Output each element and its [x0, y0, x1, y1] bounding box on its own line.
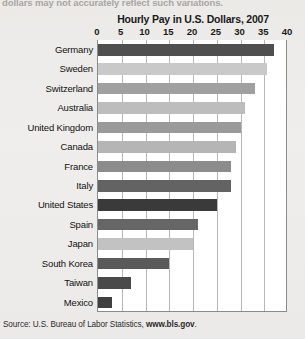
bar-series: [98, 40, 286, 311]
bar-united-states: [98, 199, 217, 211]
x-tick-20: 20: [187, 26, 198, 37]
bar-switzerland: [98, 83, 255, 95]
bar-united-kingdom: [98, 122, 241, 134]
bar-canada: [98, 141, 236, 153]
plot-area: [97, 40, 287, 312]
category-label-france: France: [0, 157, 93, 176]
bar-row: [98, 157, 286, 176]
x-tick-35: 35: [258, 26, 269, 37]
bar-mexico: [98, 297, 112, 309]
x-axis-tick-labels: 0510152025303540: [97, 26, 287, 39]
bar-row: [98, 195, 286, 214]
bar-row: [98, 293, 286, 312]
category-label-south-korea: South Korea: [0, 254, 93, 273]
bar-row: [98, 273, 286, 292]
category-label-germany: Germany: [0, 40, 93, 59]
category-label-united-states: United States: [0, 195, 93, 214]
bar-row: [98, 59, 286, 78]
bar-row: [98, 215, 286, 234]
category-label-canada: Canada: [0, 137, 93, 156]
bar-row: [98, 254, 286, 273]
source-suffix: .: [195, 320, 197, 329]
category-label-spain: Spain: [0, 215, 93, 234]
bar-row: [98, 40, 286, 59]
category-label-australia: Australia: [0, 98, 93, 117]
x-tick-40: 40: [282, 26, 293, 37]
bar-france: [98, 161, 231, 173]
x-tick-30: 30: [234, 26, 245, 37]
category-label-taiwan: Taiwan: [0, 273, 93, 292]
x-tick-0: 0: [94, 26, 99, 37]
category-label-italy: Italy: [0, 176, 93, 195]
bar-italy: [98, 180, 231, 192]
source-link: www.bls.gov: [146, 320, 195, 329]
bar-spain: [98, 219, 198, 231]
bar-taiwan: [98, 277, 131, 289]
category-label-switzerland: Switzerland: [0, 79, 93, 98]
x-tick-5: 5: [118, 26, 123, 37]
x-tick-15: 15: [163, 26, 174, 37]
bar-row: [98, 79, 286, 98]
bar-row: [98, 234, 286, 253]
category-label-sweden: Sweden: [0, 59, 93, 78]
bar-row: [98, 98, 286, 117]
category-axis-labels: GermanySwedenSwitzerlandAustraliaUnited …: [0, 40, 93, 312]
x-tick-10: 10: [139, 26, 150, 37]
bar-japan: [98, 238, 193, 250]
source-note: Source: U.S. Bureau of Labor Statistics,…: [3, 320, 197, 329]
bar-south-korea: [98, 258, 169, 270]
bar-row: [98, 176, 286, 195]
x-tick-25: 25: [210, 26, 221, 37]
source-prefix: Source: U.S. Bureau of Labor Statistics,: [3, 320, 146, 329]
bar-sweden: [98, 63, 267, 75]
category-label-mexico: Mexico: [0, 293, 93, 312]
bar-row: [98, 118, 286, 137]
bar-row: [98, 137, 286, 156]
bar-australia: [98, 102, 245, 114]
chart-title: Hourly Pay in U.S. Dollars, 2007: [97, 13, 289, 25]
clipped-caption-text: dollars may not accurately reflect such …: [2, 0, 302, 8]
category-label-japan: Japan: [0, 234, 93, 253]
category-label-united-kingdom: United Kingdom: [0, 118, 93, 137]
bar-germany: [98, 44, 274, 56]
chart-page: dollars may not accurately reflect such …: [0, 0, 305, 339]
